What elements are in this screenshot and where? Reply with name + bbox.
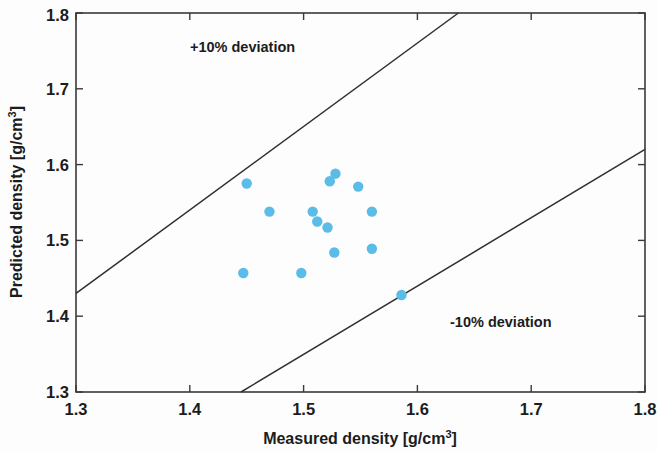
y-tick-label-4: 1.7: [46, 80, 69, 98]
x-tick-label-0: 1.3: [65, 400, 88, 418]
x-axis-title: Measured density [g/cm3]: [263, 428, 457, 447]
y-tick-label-1: 1.4: [46, 307, 70, 325]
data-point: [242, 178, 252, 188]
figure-container: 1.3 1.4 1.5 1.6 1.7 1.8 1.3 1.4 1.5 1.6 …: [0, 0, 657, 451]
data-point: [367, 206, 377, 216]
data-point: [238, 268, 248, 278]
y-axis-title-tail: ]: [8, 106, 25, 111]
y-tick-label-0: 1.3: [46, 383, 69, 401]
x-tick-label-3: 1.6: [406, 400, 429, 418]
data-point: [367, 244, 377, 254]
reference-line: [76, 13, 458, 293]
x-tick-label-1: 1.4: [178, 400, 202, 418]
data-point: [322, 222, 332, 232]
data-point: [312, 216, 322, 226]
data-point: [264, 206, 274, 216]
deviation-lines: [76, 13, 645, 392]
y-tick-label-2: 1.5: [46, 231, 69, 249]
data-point: [308, 206, 318, 216]
y-axis-ticks: [76, 13, 645, 392]
y-axis-title: Predicted density [g/cm3]: [6, 106, 25, 298]
data-points: [238, 168, 407, 300]
x-tick-label-4: 1.7: [520, 400, 543, 418]
y-tick-label-3: 1.6: [46, 156, 69, 174]
y-tick-label-5: 1.8: [46, 6, 69, 24]
y-axis-title-base: Predicted density [g/cm: [8, 117, 25, 298]
plot-frame: [76, 13, 645, 392]
data-point: [353, 181, 363, 191]
data-point: [330, 168, 340, 178]
x-axis-title-tail: ]: [452, 430, 457, 447]
scatter-plot: 1.3 1.4 1.5 1.6 1.7 1.8 1.3 1.4 1.5 1.6 …: [0, 0, 657, 451]
x-tick-label-5: 1.8: [634, 400, 657, 418]
annotation-minus-10-deviation: -10% deviation: [450, 314, 552, 330]
data-point: [296, 268, 306, 278]
data-point: [396, 290, 406, 300]
x-axis-ticks: [76, 13, 645, 392]
data-point: [329, 247, 339, 257]
annotation-plus-10-deviation: +10% deviation: [190, 39, 295, 55]
x-tick-label-2: 1.5: [292, 400, 315, 418]
x-axis-title-base: Measured density [g/cm: [263, 430, 445, 447]
